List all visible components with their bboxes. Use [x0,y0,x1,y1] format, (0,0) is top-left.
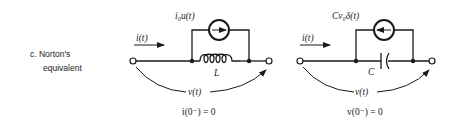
terminal-right [266,58,272,64]
wire [229,30,249,61]
terminal-right [429,58,435,64]
inductor-source-label: i₀u(t) [175,11,195,22]
norton-equivalent-diagram: c. Norton's equivalent i(t) L i₀u(t) v(t… [0,0,454,130]
capacitor-initial-condition: v(0⁻) = 0 [347,107,383,118]
inductor-circuit: i(t) L i₀u(t) v(t) i(0⁻) = 0 [130,11,272,118]
wire [356,30,374,61]
inductor-label: L [213,68,219,78]
voltage-arc [303,67,354,92]
voltage-arrow-icon [377,70,429,92]
capacitor-voltage-label: v(t) [355,87,368,98]
capacitor-label: C [368,67,375,77]
capacitor-source-label: Cv₀δ(t) [332,11,359,22]
inductor-voltage-label: v(t) [188,87,201,98]
node-dot [411,59,415,63]
voltage-arc [136,67,186,92]
inductor-current-label: i(t) [136,33,148,44]
capacitor-circuit: i(t) C Cv₀δ(t) v(t) v(0⁻) = 0 [297,11,435,118]
node-dot [190,59,194,63]
terminal-left [297,58,303,64]
section-label-line1: c. Norton's [30,49,70,59]
inductor-icon [200,54,240,62]
terminal-left [130,58,136,64]
capacitor-current-label: i(t) [302,33,314,44]
node-dot [354,59,358,63]
wire [394,30,413,61]
inductor-initial-condition: i(0⁻) = 0 [182,107,216,118]
node-dot [247,59,251,63]
section-label-line2: equivalent [43,63,82,73]
